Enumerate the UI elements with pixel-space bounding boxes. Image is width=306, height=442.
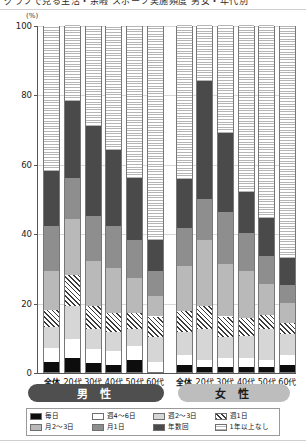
y-axis-tick-mark <box>34 234 38 235</box>
bar-segment-mainichi <box>218 367 233 372</box>
legend-label: 週4〜6日 <box>107 413 136 420</box>
bar-segment-w46 <box>197 360 212 367</box>
bar-segment-mainichi <box>127 360 142 372</box>
legend-label: 月2〜3日 <box>45 424 74 431</box>
stacked-bar <box>126 26 143 373</box>
bar-segment-w46 <box>218 358 233 367</box>
bar-segment-w1 <box>44 310 59 327</box>
legend-item: 週2〜3日 <box>153 411 215 422</box>
legend-swatch-w23 <box>153 413 165 420</box>
y-axis-tick-label: 0 <box>0 368 32 378</box>
legend-label: 週2〜3日 <box>168 413 197 420</box>
legend-swatch-nensukai <box>153 424 165 431</box>
legend-item: 週1日 <box>215 411 277 422</box>
bar-segment-mainichi <box>280 365 295 372</box>
y-axis-tick-mark <box>34 165 38 166</box>
bar-segment-mainichi <box>44 362 59 372</box>
bar-segment-m1 <box>86 216 101 261</box>
y-axis-tick-mark <box>34 304 38 305</box>
legend-swatch-m23 <box>30 424 42 431</box>
bar-segment-w1 <box>280 323 295 333</box>
bar-segment-nensukai <box>148 240 163 271</box>
bar-segment-w46 <box>148 362 163 372</box>
bar-segment-none <box>177 25 192 179</box>
legend-label: 1年以上なし <box>230 424 269 431</box>
bar-segment-none <box>65 25 80 101</box>
y-axis-unit-label: (%) <box>26 12 38 20</box>
y-axis-line <box>37 26 38 373</box>
bar-segment-none <box>86 25 101 126</box>
y-axis-tick-label: 40 <box>0 229 32 239</box>
bar-segment-nensukai <box>127 178 142 240</box>
legend-label: 年数回 <box>168 424 189 431</box>
bar-segment-w23 <box>177 332 192 355</box>
bar-segment-w46 <box>44 348 59 362</box>
bar-segment-m1 <box>44 226 59 271</box>
bar-segment-m1 <box>259 256 274 284</box>
legend-swatch-m1 <box>92 424 104 431</box>
bar-segment-m23 <box>44 271 59 309</box>
stacked-bar <box>238 26 255 373</box>
bar-segment-m1 <box>197 199 212 241</box>
bar-segment-nensukai <box>177 179 192 228</box>
bar-segment-mainichi <box>239 367 254 372</box>
bar-segment-mainichi <box>65 358 80 372</box>
bar-segment-m23 <box>197 240 212 306</box>
legend-item: 月2〜3日 <box>30 422 92 433</box>
bar-segment-nensukai <box>44 171 59 227</box>
legend-item: 毎日 <box>30 411 92 422</box>
bar-segment-w46 <box>86 349 101 363</box>
bar-segment-w23 <box>106 332 121 351</box>
bar-segment-m23 <box>106 268 121 313</box>
bar-segment-m23 <box>280 303 295 324</box>
bar-segment-m23 <box>65 219 80 275</box>
stacked-bar <box>105 26 122 373</box>
bar-segment-w23 <box>148 337 163 361</box>
bar-segment-w46 <box>259 360 274 367</box>
bar-segment-none <box>197 25 212 81</box>
bar-segment-m1 <box>280 285 295 302</box>
y-axis-tick-label: 60 <box>0 160 32 170</box>
legend-label: 月1日 <box>107 424 125 431</box>
bar-segment-w23 <box>259 329 274 360</box>
bar-segment-w46 <box>280 355 295 365</box>
legend-item: 年数回 <box>153 422 215 433</box>
bar-segment-w1 <box>148 317 163 338</box>
legend-item: 1年以上なし <box>215 422 277 433</box>
bar-segment-nensukai <box>86 126 101 216</box>
legend-swatch-mainichi <box>30 413 42 420</box>
bar-segment-m23 <box>86 261 101 306</box>
bar-segment-w23 <box>239 336 254 359</box>
bar-segment-mainichi <box>197 367 212 372</box>
legend-item: 週4〜6日 <box>92 411 154 422</box>
bar-segment-m23 <box>148 296 163 317</box>
bar-segment-m23 <box>239 271 254 318</box>
bar-segment-none <box>280 25 295 257</box>
bar-segment-w1 <box>177 311 192 332</box>
bar-segment-m1 <box>106 226 121 268</box>
bar-segment-nensukai <box>280 258 295 286</box>
bar-segment-m1 <box>127 240 142 278</box>
group-label-male: 男 性 <box>28 384 164 402</box>
x-axis-line <box>37 373 296 374</box>
bar-segment-nensukai <box>65 101 80 177</box>
bar-segment-w46 <box>65 339 80 358</box>
legend-swatch-w1 <box>215 413 227 420</box>
legend-swatch-none <box>215 424 227 431</box>
bottom-divider <box>0 440 306 441</box>
bar-segment-w46 <box>239 358 254 367</box>
bar-segment-w23 <box>127 329 142 346</box>
chart-legend: 毎日週4〜6日週2〜3日週1日月2〜3日月1日年数回1年以上なし <box>26 408 280 436</box>
bar-segment-nensukai <box>218 133 233 213</box>
plot-region: 020406080100全体20代30代40代50代60代全体20代30代40代… <box>38 26 296 373</box>
stacked-bar <box>147 26 164 373</box>
bar-segment-none <box>259 25 274 218</box>
bar-segment-w23 <box>86 329 101 350</box>
bar-segment-none <box>218 25 233 133</box>
stacked-bar <box>258 26 275 373</box>
y-axis-tick-mark <box>34 95 38 96</box>
bar-segment-w1 <box>106 313 121 332</box>
bar-segment-w1 <box>65 275 80 306</box>
legend-item: 月1日 <box>92 422 154 433</box>
bar-segment-none <box>148 25 163 240</box>
